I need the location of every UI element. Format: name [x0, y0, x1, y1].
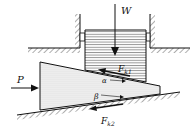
weight-label: W — [121, 5, 132, 16]
right-roller — [146, 33, 150, 41]
left-guide-wall — [28, 14, 80, 53]
friction-bottom-label: Fk2 — [100, 116, 115, 127]
wedge-diagram: W P Fk1 α β Fk2 — [0, 0, 193, 131]
push-force-arrow — [11, 85, 39, 92]
angle-beta-label: β — [93, 92, 99, 101]
left-roller — [80, 33, 85, 41]
angle-alpha-label: α — [102, 77, 107, 85]
push-force-label: P — [16, 74, 24, 85]
right-guide-wall — [150, 14, 190, 53]
